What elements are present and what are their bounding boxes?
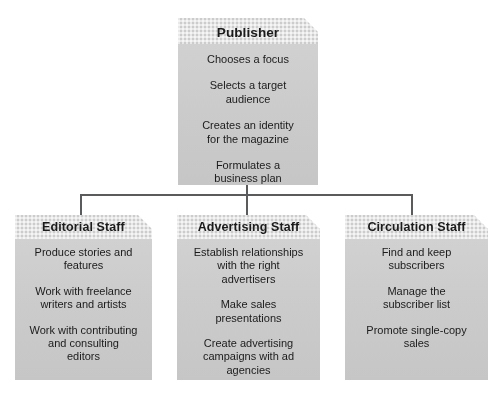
- node-item: Make sales presentations: [184, 298, 313, 325]
- node-item: Selects a target audience: [187, 79, 309, 106]
- node-item: Creates an identity for the magazine: [187, 119, 309, 146]
- node-title-advertising-staff: Advertising Staff: [184, 220, 313, 234]
- node-item: Find and keep subscribers: [352, 246, 481, 273]
- node-item: Create advertising campaigns with ad age…: [184, 337, 313, 377]
- node-item: Formulates a business plan: [187, 159, 309, 186]
- node-circulation-staff: Circulation Staff Find and keep subscrib…: [345, 215, 488, 380]
- node-item: Produce stories and features: [22, 246, 145, 273]
- node-publisher: Publisher Chooses a focus Selects a targ…: [178, 18, 318, 185]
- node-title-publisher: Publisher: [187, 25, 309, 40]
- node-item: Work with contributing and consulting ed…: [22, 324, 145, 364]
- node-editorial-staff: Editorial Staff Produce stories and feat…: [15, 215, 152, 380]
- node-title-circulation-staff: Circulation Staff: [352, 220, 481, 234]
- org-chart-diagram: Publisher Chooses a focus Selects a targ…: [0, 0, 495, 396]
- node-title-editorial-staff: Editorial Staff: [22, 220, 145, 234]
- node-item: Work with freelance writers and artists: [22, 285, 145, 312]
- node-advertising-staff: Advertising Staff Establish relationship…: [177, 215, 320, 380]
- connector-drop-circulation: [411, 194, 413, 215]
- node-item: Manage the subscriber list: [352, 285, 481, 312]
- connector-drop-advertising: [246, 194, 248, 215]
- node-item: Promote single-copy sales: [352, 324, 481, 351]
- connector-drop-editorial: [80, 194, 82, 215]
- node-item: Establish relationships with the right a…: [184, 246, 313, 286]
- node-item: Chooses a focus: [187, 53, 309, 66]
